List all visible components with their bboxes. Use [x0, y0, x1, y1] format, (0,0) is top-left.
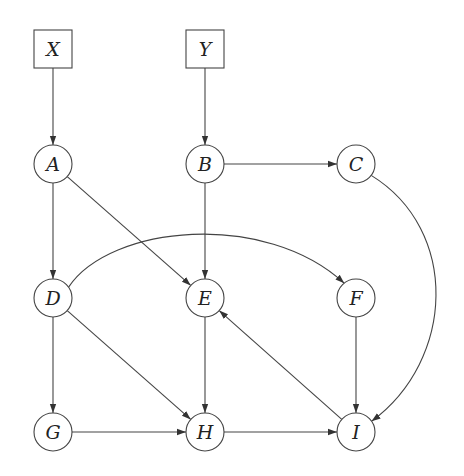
node-b: B — [186, 145, 224, 183]
node-i-label: I — [351, 421, 360, 443]
edge-i-to-e — [219, 311, 342, 420]
node-f: F — [337, 279, 375, 317]
node-g-label: G — [45, 421, 60, 443]
node-c: C — [337, 145, 375, 183]
node-h: H — [186, 413, 224, 451]
node-x-label: X — [44, 38, 61, 60]
node-e: E — [186, 279, 224, 317]
node-y: Y — [186, 30, 224, 68]
node-a: A — [34, 145, 72, 183]
edge-c-to-i — [371, 175, 436, 421]
node-i: I — [337, 413, 375, 451]
edge-d-to-h — [67, 311, 190, 420]
node-g: G — [34, 413, 72, 451]
node-f-label: F — [348, 287, 363, 309]
node-d: D — [34, 279, 72, 317]
edges-layer — [53, 68, 436, 432]
node-e-label: E — [197, 287, 212, 309]
node-x: X — [34, 30, 72, 68]
node-c-label: C — [349, 153, 364, 175]
node-a-label: A — [44, 153, 60, 175]
node-h-label: H — [196, 421, 214, 443]
node-b-label: B — [197, 153, 212, 175]
node-d-label: D — [44, 287, 60, 309]
graph-diagram: XYABCDEFGHI — [0, 0, 464, 476]
